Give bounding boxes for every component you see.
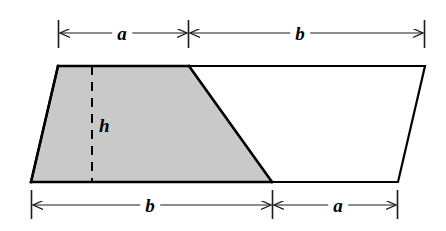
geometry-figure: a b b a h — [0, 0, 446, 231]
figure-canvas — [0, 0, 446, 231]
shaded-trapezoid — [31, 66, 272, 182]
bottom-right-dimension-label: a — [328, 196, 348, 215]
top-left-dimension-label: a — [112, 24, 132, 43]
height-label: h — [99, 116, 110, 135]
bottom-left-dimension-label: b — [140, 196, 160, 215]
top-right-dimension-label: b — [290, 24, 310, 43]
